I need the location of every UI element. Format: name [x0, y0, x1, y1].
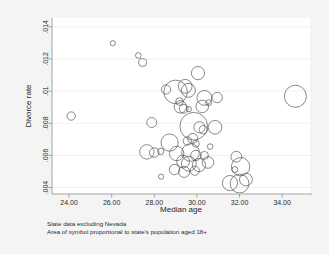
x-tick-label-1: 26.00	[103, 199, 121, 206]
y-tick-label-4: .006	[42, 149, 49, 163]
y-axis-title: Divorce rate	[24, 84, 33, 128]
y-tick-label-3: .008	[42, 116, 49, 130]
y-tick-label-1: .012	[42, 52, 49, 66]
bubble-chart: 24.0026.0028.0030.0032.0034.00 .014.012.…	[0, 0, 329, 254]
caption-line-1: State data excluding Nevada	[47, 220, 127, 227]
x-tick-label-5: 34.00	[273, 199, 291, 206]
chart-screenshot: 24.0026.0028.0030.0032.0034.00 .014.012.…	[0, 0, 329, 254]
y-tick-label-5: .004	[42, 181, 49, 195]
y-tick-label-2: .01	[42, 86, 49, 96]
x-tick-label-4: 32.00	[231, 199, 249, 206]
x-axis-title: Median age	[160, 205, 202, 214]
caption-line-2: Area of symbol proportional to state's p…	[47, 228, 207, 235]
x-tick-label-0: 24.00	[60, 199, 78, 206]
y-tick-label-0: .014	[42, 20, 49, 34]
